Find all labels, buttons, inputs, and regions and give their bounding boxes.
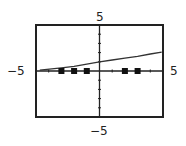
curve-series — [40, 52, 162, 70]
axes — [36, 25, 163, 117]
curve-line — [40, 52, 162, 70]
square-marker — [84, 68, 90, 74]
plot-area — [0, 0, 186, 146]
square-marker — [58, 68, 64, 74]
square-marker — [71, 68, 77, 74]
square-marker — [122, 68, 128, 74]
square-marker — [135, 68, 141, 74]
